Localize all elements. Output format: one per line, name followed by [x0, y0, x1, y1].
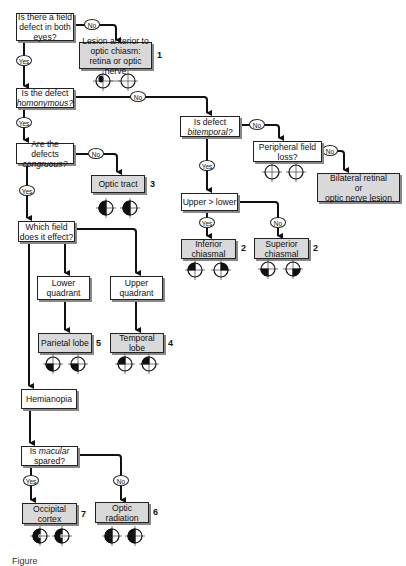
visual-field-left-eye-icon — [96, 198, 116, 218]
visual-field-left-eye-icon — [43, 354, 63, 374]
visual-field-left-eye-icon — [102, 526, 122, 546]
visual-field-right-eye-icon — [52, 526, 72, 546]
visual-field-left-eye-icon — [185, 260, 205, 280]
visual-field-left-eye-icon — [30, 526, 50, 546]
visual-field-right-eye-icon — [283, 259, 303, 279]
visual-field-right-eye-icon — [286, 162, 306, 182]
visual-field-right-eye-icon — [125, 526, 145, 546]
visual-field-right-eye-icon — [211, 260, 231, 280]
visual-field-left-eye-icon — [258, 259, 278, 279]
visual-field-left-eye-icon — [115, 354, 135, 374]
visual-field-right-eye-icon — [68, 354, 88, 374]
figure-caption: Figure — [12, 556, 38, 566]
visual-field-right-eye-icon — [120, 198, 140, 218]
visual-field-right-eye-icon — [139, 354, 159, 374]
visual-field-left-eye-icon — [262, 162, 282, 182]
